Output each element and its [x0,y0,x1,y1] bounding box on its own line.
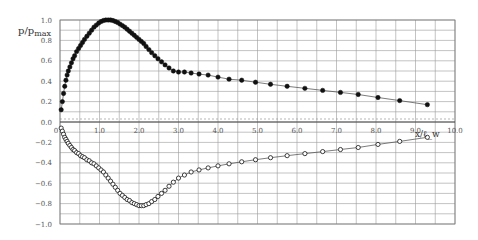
filled-data-point [59,108,63,112]
filled-data-point [240,78,244,82]
filled-data-point [253,80,257,84]
filled-data-point [163,63,167,67]
open-data-point [303,152,307,156]
open-data-point [356,145,360,149]
x-tick-label: 7.0 [331,127,342,135]
y-tick-label: 0.0 [41,119,52,127]
y-tick-label: 0.6 [41,57,53,65]
filled-data-point [167,66,171,70]
filled-data-point [376,95,380,99]
x-tick-label: 10.0 [447,127,463,135]
filled-data-point [216,75,220,79]
x-tick-label: 4.0 [212,127,223,135]
x-tick-label: 6.0 [291,127,302,135]
open-data-point [206,166,210,170]
filled-data-point [64,78,68,82]
filled-data-point [285,84,289,88]
filled-data-point [197,72,201,76]
filled-data-point [303,86,307,90]
filled-data-point [338,90,342,94]
open-data-point [321,149,325,153]
filled-data-point [182,70,186,74]
filled-data-point [268,82,272,86]
x-tick-label: 0 [54,127,58,135]
filled-data-point [171,69,175,73]
open-data-point [216,164,220,168]
y-tick-label: 0.4 [41,78,53,86]
x-axis-label: x/ℓ_w [415,129,440,140]
y-tick-label: −1.0 [35,221,52,229]
filled-data-point [61,91,65,95]
filled-data-point [156,57,160,61]
filled-data-point [66,69,70,73]
filled-data-point [69,61,73,65]
open-data-point [376,142,380,146]
y-tick-label: −0.6 [35,180,53,188]
y-tick-label: 0.8 [41,37,52,45]
open-data-point [171,180,175,184]
open-data-point [285,154,289,158]
y-tick-label: 1.0 [41,17,52,25]
open-data-point [253,158,257,162]
open-data-point [163,188,167,192]
x-tick-label: 1.0 [94,127,105,135]
x-tick-label: 8.0 [370,127,381,135]
open-data-point [182,173,186,177]
open-data-point [398,139,402,143]
y-axis-label: p/pmax [18,25,52,38]
filled-data-point [206,73,210,77]
filled-data-point [60,99,64,103]
y-tick-label: −0.4 [35,159,53,167]
x-tick-label: 5.0 [252,127,263,135]
open-data-point [167,184,171,188]
open-data-point [189,170,193,174]
filled-data-point [189,71,193,75]
data-series [59,18,430,208]
filled-data-point [398,98,402,102]
open-data-point [176,176,180,180]
filled-data-point [72,54,76,58]
filled-data-point [68,65,72,69]
filled-data-point [320,88,324,92]
open-data-point [159,191,163,195]
filled-data-point [356,92,360,96]
open-data-point [156,194,160,198]
svg-text:p/pmax: p/pmax [18,25,52,38]
filled-data-point [176,70,180,74]
y-tick-label: 0.2 [41,98,52,106]
open-data-point [197,168,201,172]
open-data-point [338,147,342,151]
filled-data-point [159,60,163,64]
open-data-point [240,160,244,164]
filled-data-point [63,84,67,88]
x-tick-label: 2.0 [133,127,144,135]
pressure-distribution-chart: 1.00.80.60.40.20.0−0.2−0.4−0.6−0.8−1.001… [0,0,478,240]
filled-data-point [65,73,69,77]
filled-data-point [227,77,231,81]
open-data-point [227,162,231,166]
y-tick-label: −0.8 [35,200,52,208]
open-data-point [268,156,272,160]
x-tick-label: 3.0 [173,127,184,135]
y-tick-label: −0.2 [35,139,52,147]
filled-data-point [425,102,429,106]
